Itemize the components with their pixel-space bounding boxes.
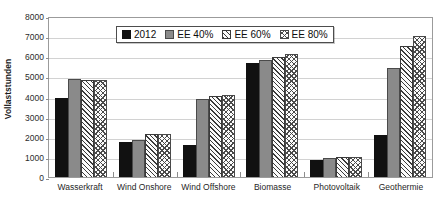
y-axis-tick-label: 3000 — [25, 113, 44, 123]
bar — [196, 99, 209, 178]
bar — [119, 142, 132, 177]
x-axis-category-label: Wind Offshore — [176, 182, 240, 192]
bar — [387, 68, 400, 177]
bar — [183, 145, 196, 177]
legend-item[interactable]: EE 80% — [280, 29, 328, 40]
legend-item[interactable]: EE 40% — [165, 29, 213, 40]
solid-black-square-icon — [122, 30, 131, 39]
bar — [400, 46, 413, 177]
diagonal-hatch-square-icon — [222, 30, 231, 39]
bar — [285, 54, 298, 177]
x-axis-category-label: Geothermie — [369, 182, 433, 192]
bar — [55, 98, 68, 178]
bar — [246, 63, 259, 177]
y-axis-tick-label: 1000 — [25, 153, 44, 163]
bar — [349, 157, 362, 177]
bar-chart: Vollaststunden 8000700060005000400030002… — [0, 0, 438, 216]
legend-item[interactable]: EE 60% — [222, 29, 270, 40]
legend-item[interactable]: 2012 — [122, 29, 156, 40]
y-axis-tick-label: 8000 — [25, 12, 44, 22]
bar — [94, 80, 107, 177]
chart-legend: 2012EE 40%EE 60%EE 80% — [116, 26, 334, 43]
y-axis-tick-label: 7000 — [25, 32, 44, 42]
y-axis-tick-label: 6000 — [25, 52, 44, 62]
bar — [272, 57, 285, 177]
legend-item-label: EE 60% — [234, 29, 270, 40]
x-axis-category-label: Wasserkraft — [48, 182, 112, 192]
y-axis-title-label: Vollaststunden — [3, 59, 13, 119]
x-axis-category-labels: WasserkraftWind OnshoreWind OffshoreBiom… — [48, 182, 433, 192]
legend-item-label: 2012 — [134, 29, 156, 40]
bar — [81, 80, 94, 177]
legend-item-label: EE 80% — [292, 29, 328, 40]
y-axis-tick-label: 2000 — [25, 133, 44, 143]
x-axis-category-label: Photovoltaik — [305, 182, 369, 192]
solid-gray-square-icon — [165, 30, 174, 39]
x-axis-category-label: Wind Onshore — [112, 182, 176, 192]
y-axis-tick-label: 5000 — [25, 72, 44, 82]
y-axis-tickmark — [46, 179, 49, 180]
bar-group — [368, 18, 432, 177]
y-axis-tick-label: 0 — [39, 173, 44, 183]
legend-item-label: EE 40% — [177, 29, 213, 40]
bar — [145, 134, 158, 177]
bar — [413, 36, 426, 177]
bar — [132, 140, 145, 177]
bar-group — [49, 18, 113, 177]
bar — [374, 135, 387, 177]
bar — [68, 79, 81, 177]
y-axis-tick-label: 4000 — [25, 93, 44, 103]
bar — [336, 157, 349, 177]
bar — [158, 134, 171, 177]
bar — [259, 60, 272, 177]
y-axis-tick-labels: 800070006000500040003000200010000 — [14, 17, 47, 178]
x-axis-category-label: Biomasse — [241, 182, 305, 192]
bar — [323, 158, 336, 177]
bar — [209, 96, 222, 178]
bar — [222, 95, 235, 178]
cross-hatch-square-icon — [280, 30, 289, 39]
bar — [310, 160, 323, 177]
